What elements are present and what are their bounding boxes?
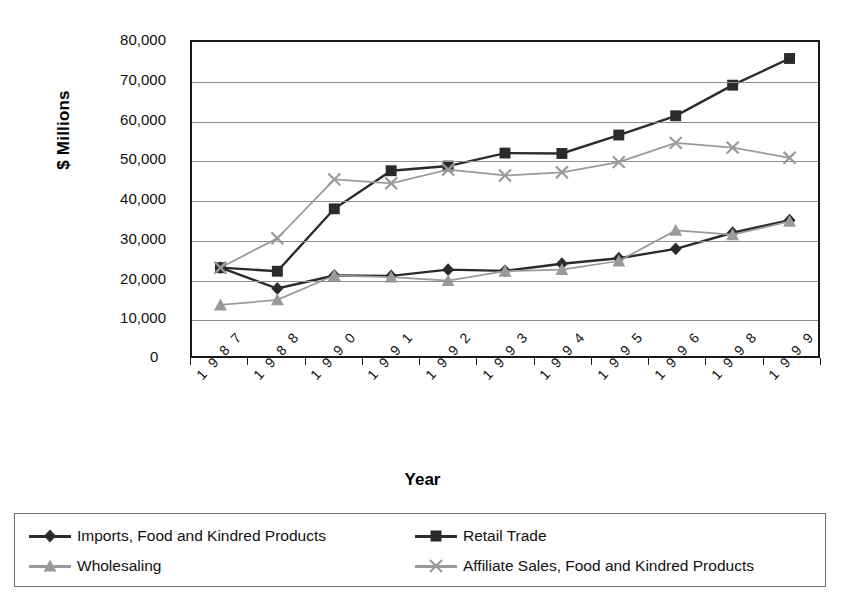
series-line <box>220 58 789 271</box>
y-tick-label: 10,000 <box>92 309 166 326</box>
gridline <box>192 201 818 202</box>
legend-triangle-icon <box>29 559 71 573</box>
data-point-cross-marker <box>430 560 442 572</box>
data-point-cross-marker <box>271 232 283 244</box>
y-axis-zero-label: 0 <box>150 348 158 365</box>
series-1 <box>214 214 795 295</box>
x-tick-mark <box>247 358 248 365</box>
plot-area <box>190 40 820 358</box>
x-tick-mark <box>362 358 363 365</box>
legend-item[interactable]: Imports, Food and Kindred Products <box>29 522 326 550</box>
x-tick-mark <box>534 358 535 365</box>
y-tick-label: 80,000 <box>92 31 166 48</box>
data-point-square-marker <box>613 130 624 141</box>
y-tick-label: 30,000 <box>92 230 166 247</box>
chart-legend: Imports, Food and Kindred ProductsRetail… <box>14 513 826 587</box>
legend-item-label: Affiliate Sales, Food and Kindred Produc… <box>463 557 754 575</box>
x-tick-mark <box>190 358 191 365</box>
legend-cross-icon <box>415 559 457 573</box>
y-axis-tick-labels: 80,00070,00060,00050,00040,00030,00020,0… <box>78 0 166 380</box>
x-tick-mark <box>820 358 821 365</box>
gridline <box>192 241 818 242</box>
series-3 <box>214 215 796 310</box>
legend-diamond-icon <box>29 529 71 543</box>
gridline <box>192 161 818 162</box>
legend-item-label: Retail Trade <box>463 527 547 545</box>
gridline <box>192 320 818 321</box>
y-tick-label: 60,000 <box>92 111 166 128</box>
y-tick-label: 20,000 <box>92 270 166 287</box>
x-tick-mark <box>763 358 764 365</box>
gridline <box>192 122 818 123</box>
gridline <box>192 82 818 83</box>
data-point-diamond-marker <box>670 242 682 255</box>
series-line <box>220 221 789 305</box>
data-point-square-marker <box>500 148 511 159</box>
y-tick-label: 50,000 <box>92 150 166 167</box>
data-point-square-marker <box>784 53 795 64</box>
legend-square-icon <box>415 529 457 543</box>
series-canvas <box>192 42 818 356</box>
legend-item-label: Wholesaling <box>77 557 161 575</box>
y-axis-title: $ Millions <box>54 60 74 200</box>
x-tick-mark <box>648 358 649 365</box>
x-tick-mark <box>705 358 706 365</box>
legend-item[interactable]: Affiliate Sales, Food and Kindred Produc… <box>415 552 754 580</box>
legend-item[interactable]: Retail Trade <box>415 522 547 550</box>
legend-item[interactable]: Wholesaling <box>29 552 161 580</box>
x-tick-mark <box>476 358 477 365</box>
data-point-diamond-marker <box>271 282 283 295</box>
legend-item-label: Imports, Food and Kindred Products <box>77 527 326 545</box>
x-tick-mark <box>591 358 592 365</box>
data-point-square-marker <box>329 203 340 214</box>
y-tick-label: 70,000 <box>92 71 166 88</box>
gridline <box>192 281 818 282</box>
data-point-square-marker <box>272 266 283 277</box>
data-point-triangle-marker <box>271 293 284 305</box>
line-chart-figure: $ Millions 80,00070,00060,00050,00040,00… <box>0 0 845 606</box>
data-point-diamond-marker <box>442 263 454 276</box>
series-2 <box>215 53 795 277</box>
data-point-diamond-marker <box>44 530 56 543</box>
data-point-square-marker <box>556 148 567 159</box>
series-line <box>220 220 789 288</box>
data-point-triangle-marker <box>44 560 57 572</box>
data-point-square-marker <box>431 531 442 542</box>
y-tick-label: 40,000 <box>92 190 166 207</box>
x-axis: 1 9 8 71 9 8 81 9 9 01 9 9 11 9 9 21 9 9… <box>190 358 820 478</box>
x-axis-title: Year <box>0 470 845 490</box>
x-tick-mark <box>305 358 306 365</box>
x-tick-mark <box>419 358 420 365</box>
data-point-square-marker <box>670 110 681 121</box>
data-point-square-marker <box>386 165 397 176</box>
